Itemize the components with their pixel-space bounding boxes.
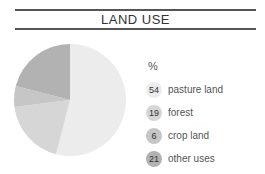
title-rule-top <box>15 9 256 11</box>
title-rule-bottom <box>15 28 256 30</box>
pie-chart <box>14 44 126 156</box>
legend-item-pasture-land: 54 pasture land <box>146 78 223 101</box>
chart-title: LAND USE <box>15 12 256 27</box>
legend-badge: 19 <box>146 105 162 121</box>
legend-item-crop-land: 6 crop land <box>146 124 223 147</box>
legend-badge: 21 <box>146 151 162 167</box>
legend-label: other uses <box>168 153 215 164</box>
legend-label: forest <box>168 107 193 118</box>
legend-badge: 6 <box>146 128 162 144</box>
legend-item-other-uses: 21 other uses <box>146 147 223 170</box>
legend-badge: 54 <box>146 82 162 98</box>
legend-label: pasture land <box>168 84 223 95</box>
legend-label: crop land <box>168 130 209 141</box>
legend-unit: % <box>148 60 223 72</box>
legend-item-forest: 19 forest <box>146 101 223 124</box>
legend: % 54 pasture land 19 forest 6 crop land … <box>146 60 223 170</box>
